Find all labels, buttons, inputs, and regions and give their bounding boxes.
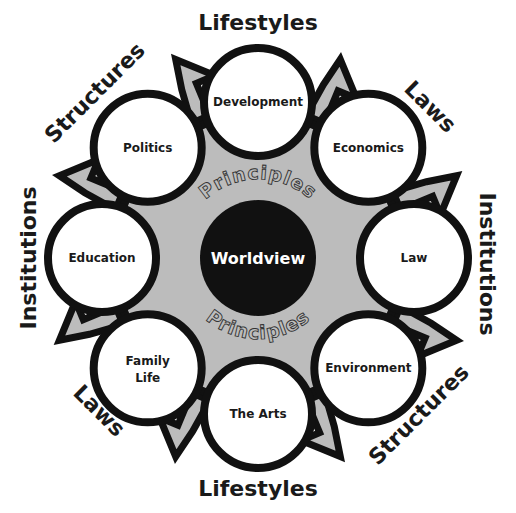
node-education: Education	[48, 204, 156, 312]
node-the-arts: The Arts	[204, 360, 312, 468]
outer-label-top: Lifestyles	[198, 10, 318, 35]
node-label: The Arts	[229, 407, 286, 421]
node-economics: Economics	[314, 94, 422, 202]
node-label: Economics	[333, 141, 404, 155]
worldview-diagram: DevelopmentEconomicsLawEnvironmentThe Ar…	[0, 0, 516, 513]
node-label: Politics	[123, 141, 172, 155]
outer-label-right: Institutions	[475, 192, 500, 335]
node-label: Education	[68, 251, 135, 265]
node-label-line2: Life	[135, 371, 160, 385]
node-law: Law	[360, 204, 468, 312]
node-label: Development	[213, 95, 303, 109]
node-label: Environment	[325, 361, 412, 375]
outer-label-left: Institutions	[16, 186, 41, 329]
worldview-label: Worldview	[211, 249, 306, 268]
node-environment: Environment	[314, 314, 422, 422]
node-development: Development	[204, 48, 312, 156]
node-label: Law	[401, 251, 428, 265]
outer-label-bottom: Lifestyles	[198, 476, 318, 501]
node-label: Family	[126, 354, 170, 368]
worldview-center: Worldview	[200, 200, 316, 316]
node-politics: Politics	[94, 94, 202, 202]
